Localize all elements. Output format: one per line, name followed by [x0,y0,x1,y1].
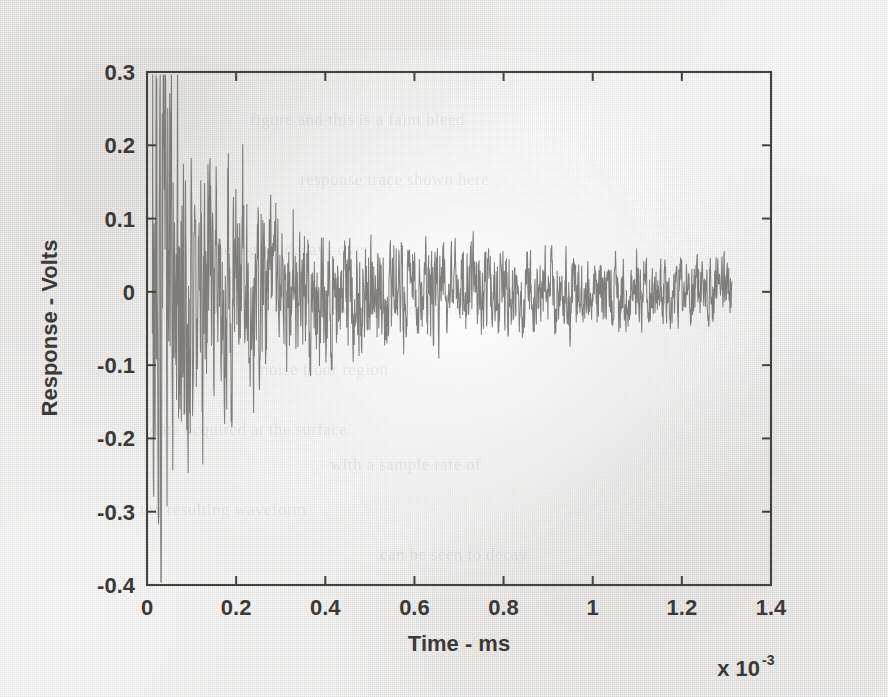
y-tick-label: 0.3 [104,60,135,85]
x-tick-label: 0.4 [310,595,341,620]
x-tick-label: 0.6 [399,595,430,620]
x-axis-exponent-power: -3 [762,652,775,668]
y-tick-label: 0.2 [104,133,135,158]
x-tick-label: 0.8 [488,595,519,620]
y-axis-tick-labels: -0.4-0.3-0.2-0.100.10.20.3 [97,60,136,598]
y-tick-label: -0.3 [97,500,135,525]
response-signal-trace [152,75,731,582]
x-axis-label: Time - ms [408,631,510,656]
scanned-figure-page: figure and this is a faint bleedresponse… [0,0,888,697]
y-tick-label: -0.2 [97,426,135,451]
x-axis-tick-labels: 00.20.40.60.811.21.4 [141,595,787,620]
x-tick-label: 1 [587,595,599,620]
y-axis-label: Response - Volts [37,240,62,417]
x-tick-label: 1.2 [667,595,698,620]
y-tick-label: -0.1 [97,353,135,378]
x-tick-label: 0.2 [221,595,252,620]
x-axis-exponent-base: x 10 [717,656,760,681]
y-tick-label: 0.1 [104,207,135,232]
y-tick-label: -0.4 [97,573,136,598]
x-tick-label: 1.4 [756,595,787,620]
response-vs-time-chart: 00.20.40.60.811.21.4 -0.4-0.3-0.2-0.100.… [0,0,888,697]
y-tick-label: 0 [123,280,135,305]
x-tick-label: 0 [141,595,153,620]
